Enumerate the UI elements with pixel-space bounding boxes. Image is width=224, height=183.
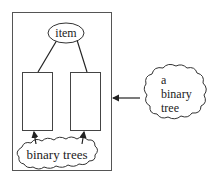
- left-subtree-box: [23, 73, 53, 131]
- edge-left: [38, 40, 57, 72]
- edge-right: [77, 40, 87, 72]
- binary-tree-diagram: item binary trees a binary tree: [0, 0, 224, 183]
- side-cloud-line-2: binary: [161, 87, 192, 101]
- side-cloud: a binary tree: [144, 64, 206, 118]
- bottom-cloud-label: binary trees: [26, 147, 87, 162]
- side-cloud-line-1: a: [161, 73, 167, 87]
- root-node-label: item: [55, 26, 77, 40]
- right-subtree-box: [71, 73, 101, 131]
- root-node: item: [48, 23, 84, 43]
- side-cloud-line-3: tree: [161, 101, 179, 115]
- bottom-cloud: binary trees: [17, 137, 97, 169]
